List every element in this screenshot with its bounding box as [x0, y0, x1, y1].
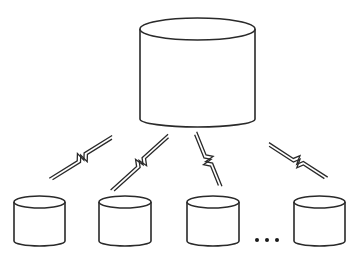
- lightning-bolt-icon: [266, 138, 330, 185]
- central-database-cylinder-icon: [140, 18, 255, 127]
- network-diagram: [0, 0, 358, 257]
- lightning-bolt-icon: [191, 130, 225, 190]
- leaf-database-cylinder-icon: [294, 196, 345, 246]
- lightning-bolt-icon: [107, 132, 174, 194]
- leaf-database-cylinder-icon: [99, 196, 151, 246]
- ellipsis-icon: [255, 238, 279, 242]
- leaf-database-cylinder-icon: [187, 196, 239, 246]
- lightning-bolt-icon: [46, 133, 117, 183]
- leaf-database-cylinder-icon: [14, 196, 65, 246]
